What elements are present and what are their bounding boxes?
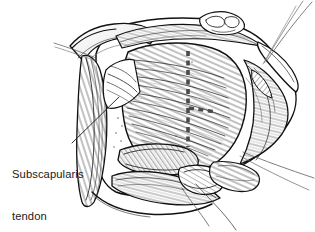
figure-root: Subscapularis tendon [0, 0, 315, 232]
label-line-2: tendon [12, 209, 84, 223]
label-subscapularis-tendon: Subscapularis tendon [12, 139, 84, 232]
label-line-1: Subscapularis [12, 167, 84, 181]
